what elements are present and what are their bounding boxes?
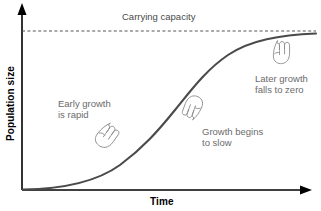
- annotation-later-growth-line2: falls to zero: [255, 84, 308, 95]
- logistic-growth-diagram: Carrying capacity Population size Time E…: [0, 0, 321, 211]
- y-axis-arrowhead-icon: [18, 3, 27, 15]
- annotation-growth-slows-line1: Growth begins: [202, 126, 263, 137]
- x-axis-arrowhead-icon: [300, 186, 312, 195]
- x-axis-title: Time: [150, 196, 174, 207]
- hand-pointing-down-right-icon: [92, 121, 121, 151]
- annotation-early-growth-line2: is rapid: [58, 109, 111, 120]
- annotation-later-growth: Later growth falls to zero: [255, 73, 308, 95]
- annotation-later-growth-line1: Later growth: [255, 73, 308, 84]
- y-axis-title: Population size: [5, 64, 16, 144]
- annotation-growth-slows: Growth begins to slow: [202, 126, 263, 148]
- diagram-canvas: [0, 0, 321, 211]
- annotation-early-growth: Early growth is rapid: [58, 98, 111, 120]
- annotation-early-growth-line1: Early growth: [58, 98, 111, 109]
- hand-pointing-up-icon: [273, 41, 289, 64]
- carrying-capacity-label: Carrying capacity: [122, 11, 195, 22]
- annotation-growth-slows-line2: to slow: [202, 137, 263, 148]
